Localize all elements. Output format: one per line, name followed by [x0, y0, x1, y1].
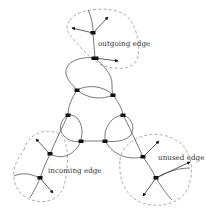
- node-mid-right: [111, 94, 116, 98]
- graph-diagram: outgoing edge incoming edge unused edge: [0, 0, 206, 217]
- node-low-right: [121, 114, 126, 118]
- node-center-left: [79, 140, 84, 144]
- outgoing-edge-label: outgoing edge: [98, 39, 150, 48]
- node-bl-2: [38, 176, 43, 180]
- node-bl-1: [48, 152, 53, 156]
- node-top-a: [91, 31, 96, 35]
- node-top-b: [92, 57, 99, 61]
- node-br-1: [141, 155, 146, 159]
- node-mid-left: [75, 89, 80, 93]
- bottom-right-region-boundary: [120, 134, 192, 205]
- incoming-edge-label: incoming edge: [48, 166, 102, 175]
- node-low-left: [66, 114, 71, 118]
- node-center-right: [103, 140, 108, 144]
- unused-edge-label: unused edge: [158, 153, 204, 162]
- node-br-2: [154, 176, 159, 180]
